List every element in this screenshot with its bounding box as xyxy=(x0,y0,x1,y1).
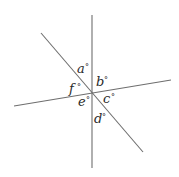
svg-text:°: ° xyxy=(104,75,108,84)
angle-label-b: b ° xyxy=(96,74,108,89)
angle-label-a: a ° xyxy=(77,61,89,76)
svg-text:°: ° xyxy=(85,62,89,71)
svg-text:a: a xyxy=(77,61,85,76)
svg-text:°: ° xyxy=(77,82,81,91)
svg-text:°: ° xyxy=(102,112,106,121)
angle-label-d: d ° xyxy=(94,111,106,126)
angle-label-e: e ° xyxy=(78,94,90,109)
angle-diagram: a ° b ° c ° d ° e ° f ° xyxy=(0,0,179,177)
svg-text:c: c xyxy=(103,91,111,106)
svg-text:°: ° xyxy=(86,95,90,104)
angle-label-c: c ° xyxy=(103,91,115,106)
svg-text:°: ° xyxy=(111,92,115,101)
svg-text:f: f xyxy=(68,81,76,96)
svg-text:e: e xyxy=(78,94,86,109)
